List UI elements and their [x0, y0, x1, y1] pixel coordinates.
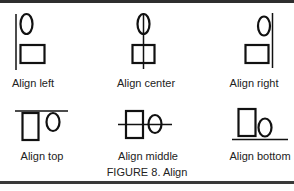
align-right-icon — [246, 13, 273, 68]
align-bottom-label: Align bottom — [229, 150, 290, 163]
align-right-label: Align right — [230, 77, 279, 90]
align-top-icon — [15, 111, 68, 140]
align-center-icon — [133, 13, 155, 69]
align-middle-label: Align middle — [118, 150, 178, 163]
align-bottom-icon — [232, 109, 288, 140]
align-left-icon — [16, 14, 45, 70]
align-top-label: Align top — [21, 150, 64, 163]
align-center-label: Align center — [117, 77, 175, 90]
figure-caption: FIGURE 8. Align — [107, 166, 188, 179]
align-middle-icon — [118, 111, 172, 138]
align-left-label: Align left — [12, 77, 54, 90]
bottom-border — [0, 181, 294, 184]
